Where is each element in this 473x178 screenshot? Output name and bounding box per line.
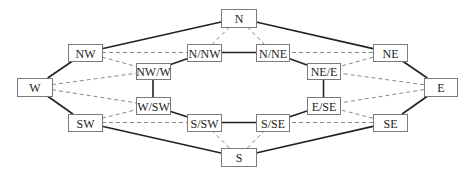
solid-edge-w-to-nw (48, 61, 73, 78)
dashed-edge-s-to-s-sw (213, 131, 230, 148)
node-label: W (29, 81, 41, 95)
node-s-sw: S/SW (188, 115, 222, 132)
node-s-se: S/SE (257, 115, 290, 132)
node-n: N (222, 10, 257, 28)
dashed-edge-w-to-w-sw (52, 90, 136, 103)
node-n-nw: N/NW (188, 45, 222, 62)
node-label: E (437, 81, 444, 95)
dashed-edge-n-to-n-ne (247, 27, 264, 44)
node-label: NW (76, 47, 97, 61)
node-w: W (18, 79, 53, 97)
dashed-edge-w-to-nw-w (52, 73, 136, 84)
node-e: E (425, 79, 458, 97)
dashed-edge-e-to-ne-e (340, 73, 424, 84)
solid-edge-n-ne-to-ne-e (289, 58, 307, 65)
node-label: N/NE (259, 47, 287, 61)
dashed-edge-sw-to-w-sw (102, 110, 136, 119)
node-label: NE/E (311, 65, 338, 79)
node-nw: NW (69, 45, 103, 62)
solid-edges (47, 22, 427, 153)
node-n-ne: N/NE (257, 45, 290, 62)
dashed-edge-nw-to-nw-w (102, 57, 136, 66)
node-ne-e: NE/E (308, 64, 341, 80)
node-e-se: E/SE (308, 98, 341, 115)
node-label: S (236, 151, 243, 165)
node-w-sw: W/SW (137, 98, 171, 115)
node-label: SW (77, 117, 96, 131)
node-label: S/SW (190, 117, 219, 131)
solid-edge-e-se-to-s-se (289, 111, 307, 117)
node-label: SE (383, 117, 397, 131)
node-ne: NE (374, 45, 408, 62)
node-se: SE (374, 115, 408, 132)
solid-edge-se-to-e (402, 96, 428, 114)
dashed-edges (52, 27, 424, 148)
dashed-edge-s-to-s-se (247, 131, 264, 148)
solid-edge-nw-w-to-n-nw (170, 59, 187, 65)
node-nw-w: NW/W (136, 64, 171, 80)
dashed-edge-se-to-e-se (340, 110, 373, 118)
dashed-edge-n-to-n-nw (213, 27, 230, 44)
node-label: N/NW (189, 47, 222, 61)
node-sw: SW (69, 115, 103, 132)
node-label: N (235, 12, 244, 26)
dashed-edge-e-to-e-se (340, 90, 424, 103)
solid-edge-ne-to-e (402, 61, 427, 78)
compass-graph-diagram: NNWN/NWN/NENENW/WNE/EWEW/SWE/SESWS/SWS/S… (0, 0, 473, 178)
solid-edge-s-sw-to-w-sw (170, 111, 187, 117)
node-s: S (222, 149, 257, 167)
solid-edge-w-to-sw (47, 96, 73, 114)
node-label: E/SE (312, 100, 337, 114)
nodes: NNWN/NWN/NENENW/WNE/EWEW/SWE/SESWS/SWS/S… (18, 10, 458, 167)
node-label: NE (383, 47, 399, 61)
node-label: S/SE (261, 117, 285, 131)
dashed-edge-ne-to-ne-e (340, 57, 373, 66)
node-label: W/SW (137, 100, 170, 114)
node-label: NW/W (136, 65, 171, 79)
